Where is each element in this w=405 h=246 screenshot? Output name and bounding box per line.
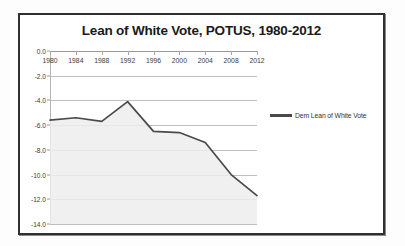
screenshot-root: Lean of White Vote, POTUS, 1980-2012 0.0… <box>0 0 405 246</box>
chart-image-frame: Lean of White Vote, POTUS, 1980-2012 0.0… <box>18 13 385 235</box>
chart-title: Lean of White Vote, POTUS, 1980-2012 <box>20 23 383 38</box>
series-area-fill <box>50 102 257 224</box>
gridline--14 <box>50 224 257 225</box>
y-axis-tick-label: -6.0 <box>35 122 46 129</box>
y-axis-tick-label: -12.0 <box>31 196 46 203</box>
x-tick-mark <box>257 51 258 55</box>
chart-legend: Dem Lean of White Vote <box>270 112 366 119</box>
series-plot-svg <box>50 51 257 224</box>
y-axis-tick-label: 0.0 <box>37 48 46 55</box>
y-axis-tick-label: -8.0 <box>35 146 46 153</box>
y-axis-tick-label: -2.0 <box>35 72 46 79</box>
legend-line-swatch <box>270 114 292 116</box>
y-axis-tick-label: -14.0 <box>31 221 46 228</box>
y-axis-tick-label: -10.0 <box>31 171 46 178</box>
y-axis-tick-label: -4.0 <box>35 97 46 104</box>
legend-item-label: Dem Lean of White Vote <box>295 112 366 119</box>
chart-canvas: Lean of White Vote, POTUS, 1980-2012 0.0… <box>20 15 383 233</box>
plot-area: 0.0-2.0-4.0-6.0-8.0-10.0-12.0-14.0 19801… <box>50 51 257 224</box>
